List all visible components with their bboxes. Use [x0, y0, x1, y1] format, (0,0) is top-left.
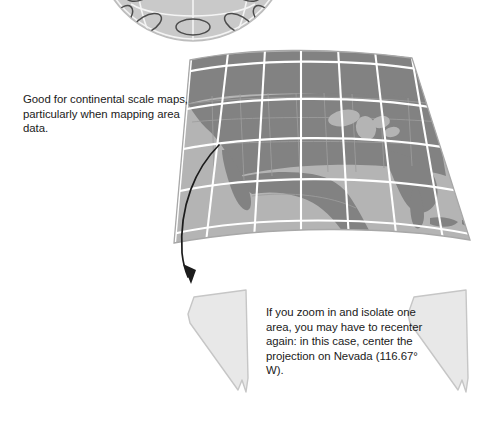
figure-page: Good for continental scale maps, particu… [0, 0, 499, 426]
caption-continental-scale: Good for continental scale maps, particu… [23, 92, 195, 136]
nevada-outline-left [188, 290, 248, 392]
nevada-left-shape [188, 290, 248, 392]
caption-recenter-nevada: If you zoom in and isolate one area, you… [266, 305, 426, 378]
globe-with-tissot-ellipses [78, 0, 308, 41]
curved-arrow-head [183, 264, 196, 284]
